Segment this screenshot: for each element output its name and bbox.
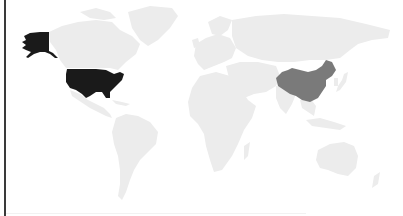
world-map — [0, 0, 403, 216]
region-indonesia[interactable] — [306, 118, 346, 130]
region-canada[interactable] — [49, 20, 140, 70]
region-australia[interactable] — [316, 142, 358, 176]
region-madagascar[interactable] — [244, 142, 250, 160]
map-container — [0, 0, 403, 216]
region-caribbean[interactable] — [112, 100, 130, 106]
region-south-america[interactable] — [112, 114, 158, 200]
region-korea[interactable] — [334, 78, 338, 86]
region-europe[interactable] — [194, 34, 236, 70]
region-new-zealand[interactable] — [372, 172, 380, 188]
region-scandinavia[interactable] — [208, 16, 232, 36]
region-russia[interactable] — [232, 14, 390, 62]
region-arctic-islands[interactable] — [80, 8, 116, 20]
